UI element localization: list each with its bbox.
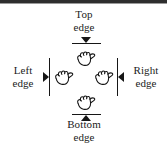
top-edge-label-line2: edge bbox=[73, 21, 94, 33]
left-edge-label-line1: Left bbox=[14, 64, 33, 76]
bottom-edge-label-line2: edge bbox=[73, 131, 94, 143]
grab-hand-icon-right[interactable] bbox=[92, 66, 116, 88]
right-edge-label-line2: edge bbox=[135, 77, 156, 89]
bottom-edge-label: Bottom edge bbox=[48, 118, 120, 143]
grab-hand-icon-bottom[interactable] bbox=[74, 91, 98, 113]
arrow-right-icon bbox=[43, 72, 49, 82]
top-edge-rule bbox=[72, 43, 101, 44]
edge-drag-diagram: Top edge Left edge bbox=[0, 0, 167, 155]
left-edge-label-line2: edge bbox=[12, 77, 33, 89]
arrow-down-icon bbox=[81, 37, 91, 43]
left-edge-rule bbox=[49, 58, 50, 96]
left-edge-label: Left edge bbox=[2, 64, 44, 89]
arrow-left-icon bbox=[118, 72, 124, 82]
top-edge-label: Top edge bbox=[52, 8, 116, 33]
top-edge-label-line1: Top bbox=[75, 8, 92, 20]
grab-hand-icon-left[interactable] bbox=[52, 66, 76, 88]
page-top-rule-shadow bbox=[0, 3, 167, 4]
bottom-edge-label-line1: Bottom bbox=[67, 118, 101, 130]
right-edge-label: Right edge bbox=[126, 64, 166, 89]
right-edge-label-line1: Right bbox=[134, 64, 159, 76]
